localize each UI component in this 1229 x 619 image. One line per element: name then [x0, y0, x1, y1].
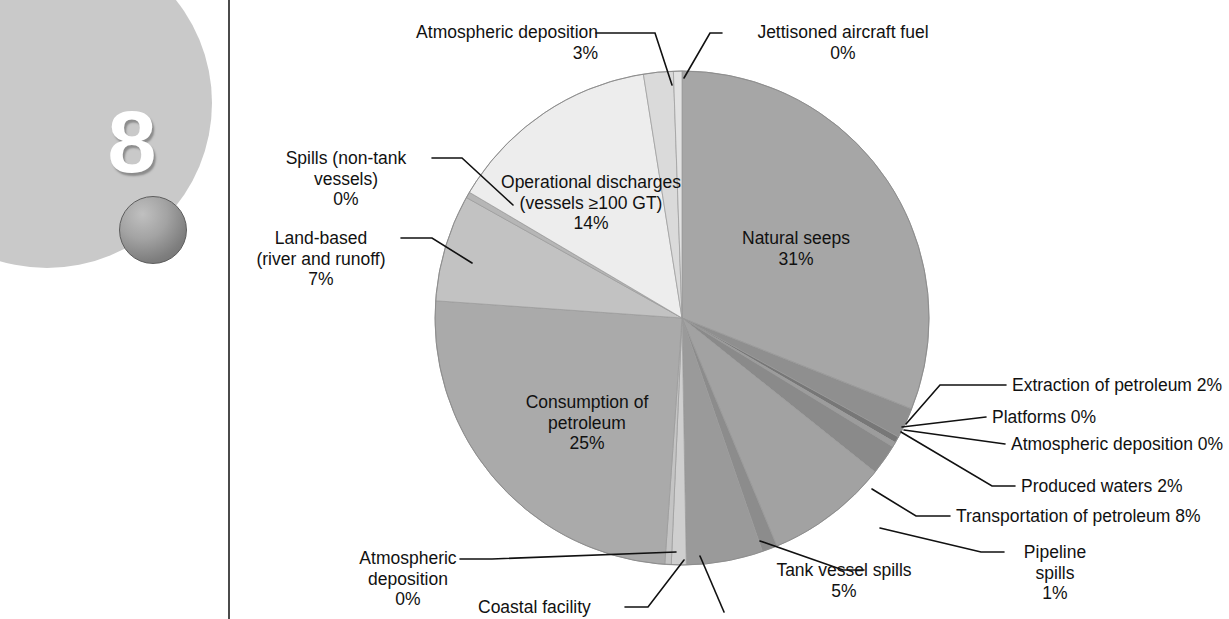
label-pipeline-spills: Pipeline spills 1%: [1000, 542, 1110, 604]
leader-produced-waters: [901, 432, 1015, 486]
leader-bottom-offpage: [700, 556, 724, 612]
label-spills-non-tank-vessels: Spills (non-tank vessels) 0%: [258, 148, 434, 210]
label-produced-waters: Produced waters 2%: [1021, 476, 1211, 497]
leader-transportation-of-petroleum: [872, 489, 950, 516]
label-jettisoned-aircraft-fuel: Jettisoned aircraft fuel 0%: [728, 22, 958, 63]
label-consumption-of-petroleum: Consumption of petroleum 25%: [496, 392, 678, 454]
label-operational-discharges: Operational discharges (vessels ≥100 GT)…: [470, 172, 712, 234]
label-atmospheric-deposition-consumption: Atmospheric deposition 3%: [388, 22, 598, 63]
label-atmospheric-deposition-transportation: Atmospheric deposition 0%: [344, 548, 472, 610]
label-natural-seeps: Natural seeps 31%: [716, 228, 876, 269]
leader-pipeline-spills: [880, 528, 1004, 552]
label-coastal-facility: Coastal facility: [478, 597, 658, 618]
label-land-based: Land-based (river and runoff) 7%: [238, 228, 404, 290]
pie-slice-group: [435, 71, 929, 565]
page-canvas: 8: [0, 0, 1229, 619]
pie-chart: Atmospheric deposition 3% Jettisoned air…: [0, 0, 1229, 619]
label-tank-vessel-spills: Tank vessel spills 5%: [746, 560, 942, 601]
label-transportation-of-petroleum: Transportation of petroleum 8%: [956, 506, 1226, 527]
leader-platforms: [902, 417, 986, 427]
label-atmospheric-deposition-extraction: Atmospheric deposition 0%: [1011, 434, 1229, 455]
label-extraction-of-petroleum: Extraction of petroleum 2%: [1012, 375, 1229, 396]
label-platforms: Platforms 0%: [992, 407, 1132, 428]
leader-extraction-of-petroleum: [906, 385, 1006, 424]
